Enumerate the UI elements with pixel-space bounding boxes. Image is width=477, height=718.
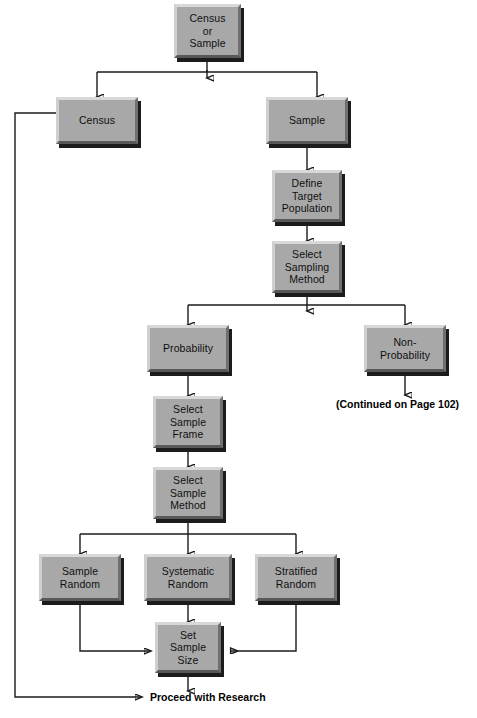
node-label: Stratified Random <box>273 565 319 590</box>
node-census[interactable]: Census <box>56 97 138 144</box>
node-select-sampling-method[interactable]: Select Sampling Method <box>272 241 342 293</box>
node-label: Select Sample Method <box>168 474 208 511</box>
node-non-probability[interactable]: Non- Probability <box>364 325 446 372</box>
node-label: Probability <box>161 342 215 354</box>
node-select-sample-frame[interactable]: Select Sample Frame <box>153 396 223 448</box>
node-label: Non- Probability <box>378 336 432 361</box>
node-label: Census <box>77 114 117 126</box>
flowchart-canvas: Census or Sample Census Sample Define Ta… <box>0 0 477 718</box>
node-label: Census or Sample <box>187 12 227 49</box>
node-label: Select Sample Frame <box>168 403 208 440</box>
node-define-target-population[interactable]: Define Target Population <box>272 170 342 222</box>
node-census-or-sample[interactable]: Census or Sample <box>174 4 241 58</box>
node-sample-random[interactable]: Sample Random <box>39 554 121 601</box>
node-sample[interactable]: Sample <box>266 97 348 144</box>
node-label: Sample <box>287 114 327 126</box>
node-label: Sample Random <box>58 565 102 590</box>
node-select-sample-method[interactable]: Select Sample Method <box>153 467 223 519</box>
node-label: Set Sample Size <box>168 629 208 666</box>
node-stratified-random[interactable]: Stratified Random <box>255 554 337 601</box>
node-label: Select Sampling Method <box>283 248 332 285</box>
node-label: Systematic Random <box>160 565 216 590</box>
node-systematic-random[interactable]: Systematic Random <box>144 554 232 601</box>
continued-on-page-label: (Continued on Page 102) <box>336 398 459 410</box>
node-set-sample-size[interactable]: Set Sample Size <box>155 622 221 673</box>
node-probability[interactable]: Probability <box>147 325 229 372</box>
node-label: Define Target Population <box>280 177 335 214</box>
proceed-with-research-label: Proceed with Research <box>150 691 266 703</box>
